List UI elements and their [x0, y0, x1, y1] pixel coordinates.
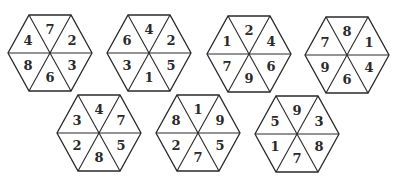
- sector-number-top-left: 6: [122, 33, 131, 48]
- sector-number-bottom: 6: [45, 70, 54, 85]
- sector-number-top: 8: [342, 24, 351, 39]
- sector-number-top-left: 3: [72, 113, 81, 128]
- sector-number-bottom-left: 7: [222, 59, 231, 74]
- hexagon: 195728: [156, 95, 240, 171]
- sector-number-top-right: 1: [365, 35, 374, 50]
- sector-number-top-left: 8: [171, 113, 180, 128]
- sector-number-top-left: 7: [320, 35, 329, 50]
- hexagon: 723684: [8, 15, 92, 91]
- sector-number-bottom-right: 3: [67, 58, 76, 73]
- sector-number-bottom-right: 5: [167, 58, 176, 73]
- sector-number-bottom-right: 5: [216, 138, 225, 153]
- sector-number-bottom: 7: [193, 150, 202, 165]
- sector-number-bottom-left: 2: [171, 138, 180, 153]
- sector-number-top: 4: [144, 22, 153, 37]
- sector-number-bottom-left: 3: [122, 58, 131, 73]
- sector-number-top-left: 1: [222, 34, 231, 49]
- sector-number-top-left: 5: [270, 114, 279, 129]
- sector-number-bottom: 8: [94, 150, 103, 165]
- hexagon: 938715: [255, 96, 339, 172]
- hexagon: 425136: [107, 15, 191, 91]
- sector-number-bottom-right: 6: [267, 59, 276, 74]
- hexagon: 246971: [207, 16, 291, 92]
- sector-number-top-right: 3: [315, 114, 324, 129]
- sector-number-bottom-right: 4: [365, 60, 374, 75]
- sector-number-top-right: 4: [267, 34, 276, 49]
- sector-number-bottom: 9: [244, 71, 253, 86]
- sector-number-top-right: 2: [167, 33, 176, 48]
- hexagon: 475823: [57, 95, 141, 171]
- sector-number-top-right: 2: [67, 33, 76, 48]
- sector-number-top-right: 9: [216, 113, 225, 128]
- sector-number-top: 1: [193, 102, 202, 117]
- sector-number-bottom: 1: [144, 70, 153, 85]
- sector-number-bottom-left: 8: [23, 58, 32, 73]
- sector-number-bottom: 6: [342, 72, 351, 87]
- sector-number-bottom-left: 9: [320, 60, 329, 75]
- sector-number-bottom-right: 5: [116, 138, 125, 153]
- sector-number-top: 2: [244, 23, 253, 38]
- hexagon: 814697: [305, 17, 389, 93]
- sector-number-top: 7: [45, 22, 54, 37]
- sector-number-top-left: 4: [23, 33, 32, 48]
- hexagon-number-puzzle: 7236844251362469718146974758231957289387…: [0, 0, 394, 188]
- sector-number-top: 9: [292, 103, 301, 118]
- sector-number-bottom: 7: [292, 151, 301, 166]
- sector-number-top: 4: [94, 102, 103, 117]
- sector-number-bottom-left: 1: [270, 139, 279, 154]
- sector-number-bottom-left: 2: [72, 138, 81, 153]
- sector-number-bottom-right: 8: [315, 139, 324, 154]
- sector-number-top-right: 7: [116, 113, 125, 128]
